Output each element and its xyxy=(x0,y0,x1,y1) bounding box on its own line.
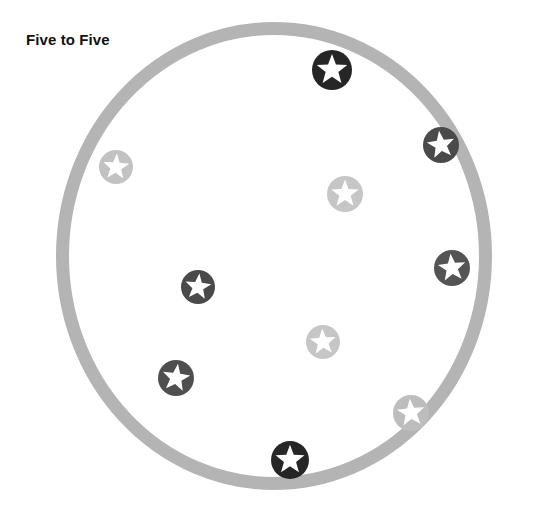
star-token-light-lower-right[interactable] xyxy=(393,395,429,431)
puzzle-canvas: Five to Five xyxy=(0,0,536,513)
star-token-light-upper-left[interactable] xyxy=(99,150,133,184)
star-token-dark-right[interactable] xyxy=(434,250,470,286)
star-token-dark-bottom[interactable] xyxy=(271,441,309,479)
star-token-dark-top[interactable] xyxy=(312,50,352,90)
star-token-light-center[interactable] xyxy=(306,325,340,359)
star-token-dark-upper-right[interactable] xyxy=(423,127,459,163)
star-token-light-upper-center[interactable] xyxy=(327,176,363,212)
star-token-dark-lower-left[interactable] xyxy=(158,360,194,396)
star-token-dark-center-left[interactable] xyxy=(181,270,215,304)
page-title: Five to Five xyxy=(26,31,110,48)
